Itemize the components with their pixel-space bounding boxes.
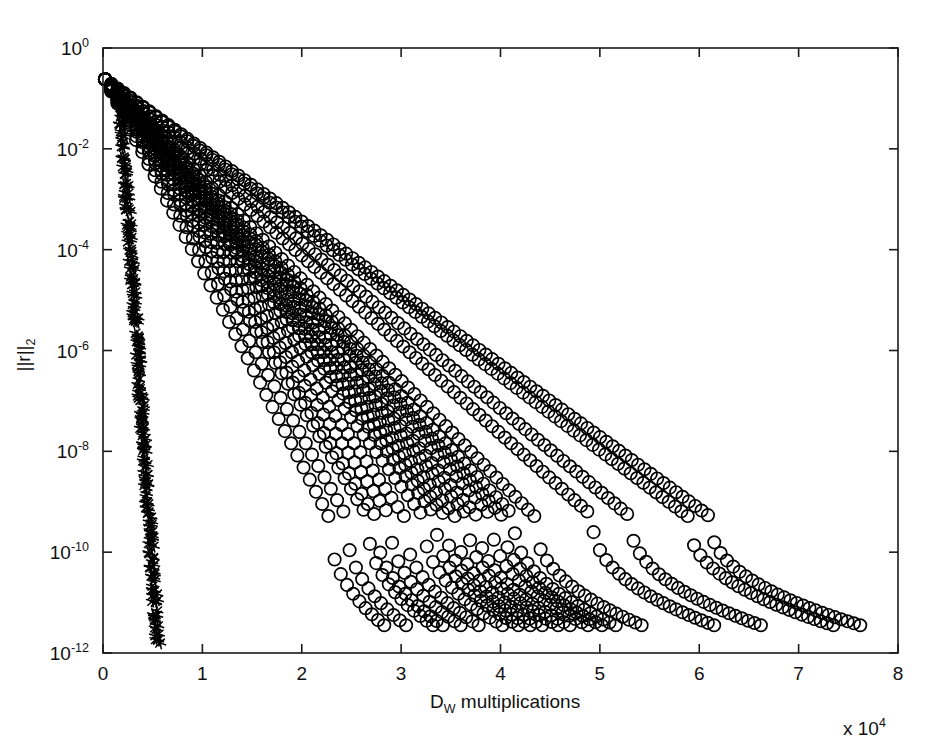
- x-tick-label: 4: [495, 663, 506, 684]
- circle-marker: [312, 460, 324, 472]
- circle-marker: [322, 510, 334, 522]
- y-tick-base: 10: [57, 441, 78, 462]
- circle-marker: [380, 504, 392, 516]
- circle-marker: [362, 582, 374, 594]
- x-tick-label: 3: [396, 663, 407, 684]
- circle-marker: [634, 547, 646, 559]
- convergence-scatter-plot: 012345678 10010-210-410-610-810-1010-12 …: [0, 0, 935, 745]
- circle-marker: [293, 426, 305, 438]
- y-tick-exponent: -12: [71, 641, 89, 655]
- y-tick-label: 10-12: [50, 641, 89, 664]
- circle-marker: [398, 567, 410, 579]
- circle-marker: [291, 449, 303, 461]
- circle-marker: [379, 483, 391, 495]
- circle-marker: [281, 403, 293, 415]
- circle-marker: [192, 255, 204, 267]
- circle-marker: [431, 529, 443, 541]
- circle-marker: [262, 369, 274, 381]
- circle-marker: [391, 501, 403, 513]
- x-tick-label: 2: [296, 663, 307, 684]
- x-multiplier-exponent: 4: [879, 716, 886, 730]
- y-tick-exponent: -4: [78, 238, 89, 252]
- y-tick-base: 10: [50, 643, 71, 664]
- x-axis-title-rest: multiplications: [456, 691, 581, 712]
- svg-text:||r||2: ||r||2: [13, 338, 38, 371]
- circle-marker: [627, 535, 639, 547]
- circle-marker: [356, 573, 368, 585]
- circle-marker: [279, 425, 291, 437]
- series-circle-curve-20: [99, 73, 867, 631]
- y-tick-label: 10-10: [50, 540, 89, 563]
- x-tick-label: 8: [893, 663, 904, 684]
- x-axis-multiplier: x 104: [843, 716, 886, 739]
- circle-marker: [364, 538, 376, 550]
- circle-marker: [385, 492, 397, 504]
- circle-marker: [224, 301, 236, 313]
- y-tick-exponent: 0: [82, 36, 89, 50]
- circle-marker: [367, 464, 379, 476]
- circle-marker: [368, 508, 380, 520]
- circle-marker: [476, 542, 488, 554]
- circle-marker: [416, 571, 428, 583]
- circle-marker: [256, 357, 268, 369]
- circle-marker: [274, 392, 286, 404]
- circle-marker: [509, 527, 521, 539]
- y-axis-title: ||r||2: [13, 338, 38, 371]
- y-tick-base: 10: [50, 542, 71, 563]
- circle-marker: [464, 534, 476, 546]
- circle-marker: [360, 455, 372, 467]
- circle-marker: [398, 510, 410, 522]
- y-tick-base: 10: [61, 38, 82, 59]
- x-tick-label: 7: [793, 663, 804, 684]
- circle-marker: [248, 364, 260, 376]
- y-tick-base: 10: [57, 139, 78, 160]
- x-tick-label: 0: [98, 663, 109, 684]
- y-tick-label: 10-4: [57, 238, 89, 261]
- circle-marker: [297, 461, 309, 473]
- svg-text:DW multiplications: DW multiplications: [430, 691, 580, 716]
- circle-marker: [285, 437, 297, 449]
- y-tick-label: 10-6: [57, 339, 89, 362]
- y-tick-base: 10: [57, 240, 78, 261]
- circle-marker: [268, 380, 280, 392]
- x-axis-tick-labels: 012345678: [98, 663, 904, 684]
- circle-marker: [714, 547, 726, 559]
- circle-marker: [217, 304, 229, 316]
- circle-marker: [318, 471, 330, 483]
- circle-marker: [287, 414, 299, 426]
- circle-marker: [300, 437, 312, 449]
- data-points-layer: [99, 73, 867, 649]
- circle-marker: [541, 554, 553, 566]
- svg-text:x 104: x 104: [843, 716, 886, 739]
- x-multiplier-base: x 10: [843, 718, 879, 739]
- circle-marker: [231, 312, 243, 324]
- circle-marker: [392, 555, 404, 567]
- circle-marker: [210, 291, 222, 303]
- figure-container: 012345678 10010-210-410-610-810-1010-12 …: [0, 0, 935, 745]
- circle-marker: [443, 539, 455, 551]
- circle-marker: [421, 540, 433, 552]
- x-tick-label: 1: [197, 663, 208, 684]
- circle-marker: [304, 473, 316, 485]
- y-axis-title-sub: 2: [24, 338, 38, 345]
- y-tick-exponent: -10: [71, 540, 89, 554]
- y-tick-exponent: -8: [78, 439, 89, 453]
- x-axis-title: DW multiplications: [430, 691, 580, 716]
- circle-marker: [306, 448, 318, 460]
- y-axis-tick-labels: 10010-210-410-610-810-1010-12: [50, 36, 89, 664]
- circle-marker: [488, 533, 500, 545]
- circle-marker: [373, 473, 385, 485]
- circle-marker: [354, 446, 366, 458]
- circle-marker: [501, 541, 513, 553]
- circle-marker: [404, 548, 416, 560]
- circle-marker: [316, 498, 328, 510]
- x-axis-title-base: D: [430, 691, 444, 712]
- circle-marker: [587, 526, 599, 538]
- circle-marker: [374, 546, 386, 558]
- circle-marker: [386, 537, 398, 549]
- circle-marker: [325, 483, 337, 495]
- circle-marker: [343, 544, 355, 556]
- x-tick-label: 5: [595, 663, 606, 684]
- circle-marker: [350, 561, 362, 573]
- circle-marker: [455, 546, 467, 558]
